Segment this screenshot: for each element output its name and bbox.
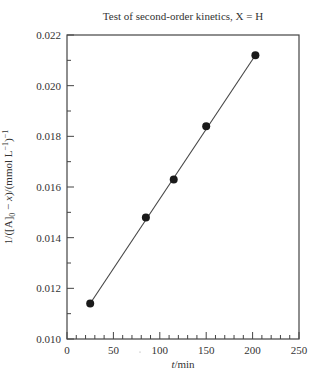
y-tick-label: 0.010: [36, 333, 61, 345]
y-axis: 0.0100.0120.0140.0160.0180.0200.022: [36, 29, 74, 345]
data-point: [202, 122, 210, 130]
plot-border: [67, 35, 299, 339]
y-tick-label: 0.014: [36, 232, 61, 244]
x-tick-label: 50: [108, 344, 120, 356]
y-tick-label: 0.018: [36, 130, 61, 142]
x-tick-label: 250: [291, 344, 308, 356]
data-point: [251, 51, 259, 59]
x-tick-label: 0: [64, 344, 70, 356]
chart-title: Test of second-order kinetics, X = H: [103, 10, 263, 22]
data-point: [170, 175, 178, 183]
chart-canvas: Test of second-order kinetics, X = H 050…: [0, 0, 319, 390]
y-tick-label: 0.022: [36, 29, 61, 41]
x-axis-label: t/min: [171, 358, 195, 370]
x-tick-label: 100: [152, 344, 169, 356]
x-axis: 050100150200250: [64, 332, 308, 356]
plot-frame: [67, 35, 299, 339]
data-points: [86, 51, 259, 307]
y-axis-label: 1/([A]0 − x)/(mmol L−1)−1: [1, 130, 17, 244]
data-point: [86, 300, 94, 308]
data-point: [142, 213, 150, 221]
stray-mark: [139, 351, 140, 352]
y-tick-label: 0.020: [36, 80, 61, 92]
x-tick-label: 200: [244, 344, 261, 356]
x-tick-label: 150: [198, 344, 215, 356]
y-tick-label: 0.012: [36, 282, 61, 294]
y-tick-label: 0.016: [36, 181, 61, 193]
chart: Test of second-order kinetics, X = H 050…: [0, 0, 319, 390]
